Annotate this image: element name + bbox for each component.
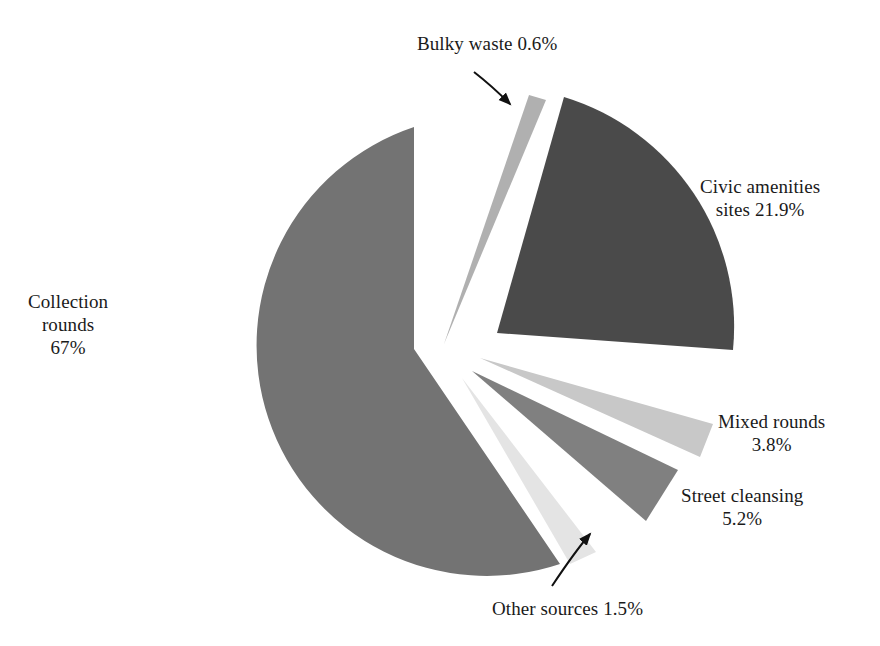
slice-label-collection-rounds-line1: Collection: [28, 290, 108, 313]
slice-label-collection-rounds-line3: 67%: [28, 336, 108, 359]
slice-label-street-cleansing-line2: 5.2%: [681, 507, 803, 530]
pie-slice-collection-rounds[interactable]: [257, 127, 560, 576]
slice-label-bulky-waste-line1: Bulky waste 0.6%: [417, 32, 557, 55]
slice-label-mixed-rounds-line2: 3.8%: [718, 433, 825, 456]
leader-line-bulky-waste: [474, 72, 510, 104]
slice-label-collection-rounds-line2: rounds: [28, 313, 108, 336]
pie-chart-svg: [0, 0, 880, 646]
slice-label-mixed-rounds-line1: Mixed rounds: [718, 410, 825, 433]
pie-chart-figure: Bulky waste 0.6% Civic amenities sites 2…: [0, 0, 880, 646]
slice-label-civic-amenities-line1: Civic amenities: [700, 175, 820, 198]
slice-label-civic-amenities: Civic amenities sites 21.9%: [700, 175, 820, 221]
slice-label-bulky-waste: Bulky waste 0.6%: [417, 32, 557, 55]
slice-label-other-sources-line1: Other sources 1.5%: [492, 597, 643, 620]
slice-label-collection-rounds: Collection rounds 67%: [28, 290, 108, 360]
slice-label-street-cleansing: Street cleansing 5.2%: [681, 484, 803, 530]
slice-label-civic-amenities-line2: sites 21.9%: [700, 198, 820, 221]
slice-label-street-cleansing-line1: Street cleansing: [681, 484, 803, 507]
pie-slice-civic-amenities-sites[interactable]: [497, 97, 734, 350]
slice-label-other-sources: Other sources 1.5%: [492, 597, 643, 620]
slice-label-mixed-rounds: Mixed rounds 3.8%: [718, 410, 825, 456]
